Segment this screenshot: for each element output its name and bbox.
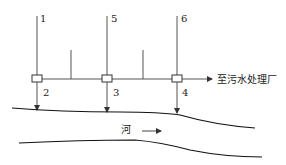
sewer-river-diagram: 1 5 6 2 3 4 至污水处理厂 河: [0, 0, 286, 165]
outlet-label-2: 2: [43, 87, 49, 98]
inlet-label-6: 6: [181, 13, 187, 24]
outlet-label-3: 3: [113, 87, 119, 98]
outlet-label-4: 4: [182, 87, 188, 98]
inlet-label-1: 1: [40, 13, 46, 24]
inlet-label-5: 5: [111, 13, 117, 24]
overflow-chamber-2: [102, 75, 112, 82]
destination-label: 至污水处理厂: [217, 74, 277, 85]
river-bank-bottom: [19, 140, 262, 157]
river-label: 河: [121, 124, 131, 135]
overflow-chamber-3: [172, 75, 182, 82]
river-bank-top: [12, 108, 255, 128]
overflow-chamber-1: [32, 75, 42, 82]
